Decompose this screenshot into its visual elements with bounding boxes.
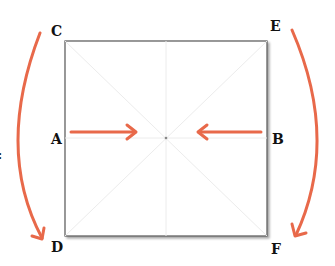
side-mark: : (0, 150, 2, 161)
label-b: B (272, 132, 284, 146)
label-e: E (270, 19, 281, 33)
label-f: F (271, 242, 281, 256)
label-c: C (51, 24, 62, 38)
arrow-e-to-f (292, 30, 317, 236)
center-point (165, 137, 168, 140)
label-d: D (51, 240, 63, 254)
arrow-c-to-d (18, 33, 44, 239)
label-a: A (51, 132, 62, 146)
